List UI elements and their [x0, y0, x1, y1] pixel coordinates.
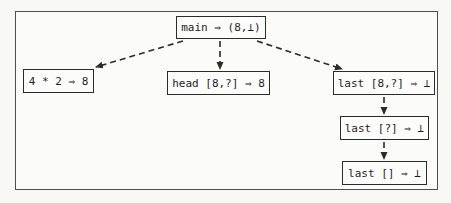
node-main: main ⇒ (8,⊥) — [176, 16, 266, 39]
node-head: head [8,?] ⇒ 8 — [167, 71, 270, 95]
node-last2: last [?] ⇒ ⊥ — [340, 116, 429, 140]
node-mul: 4 * 2 ⇒ 8 — [23, 69, 94, 93]
diagram-canvas: main ⇒ (8,⊥) 4 * 2 ⇒ 8 head [8,?] ⇒ 8 la… — [0, 0, 451, 203]
node-last3: last [] ⇒ ⊥ — [342, 161, 427, 185]
node-last1: last [8,?] ⇒ ⊥ — [333, 71, 435, 95]
